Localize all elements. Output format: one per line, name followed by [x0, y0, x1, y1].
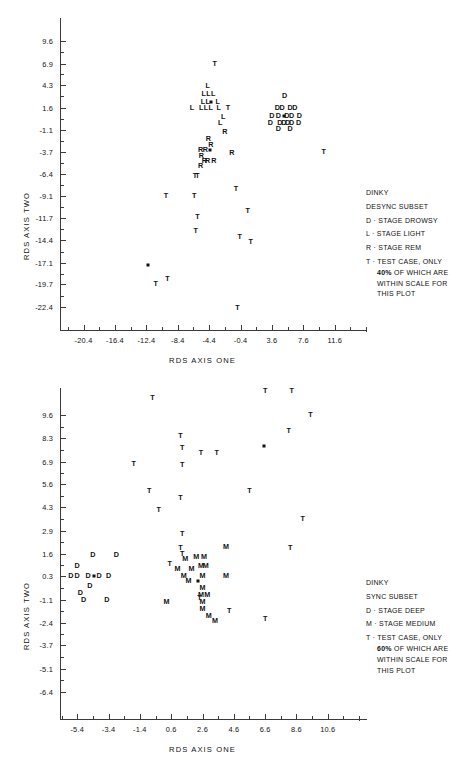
y-axis-minor-tick — [61, 657, 64, 658]
legend-note-line: THIS PLOT — [377, 666, 448, 676]
data-point-d: D — [75, 562, 80, 569]
data-point-d: D — [296, 119, 301, 126]
x-axis-title: RDS AXIS ONE — [169, 356, 236, 365]
x-axis-tick — [84, 325, 85, 330]
y-axis-tick — [61, 284, 66, 285]
y-axis-tick-label: -6.4 — [39, 170, 53, 179]
y-axis-tick-label: -6.4 — [39, 687, 53, 696]
y-axis-tick — [61, 554, 66, 555]
data-point-t: T — [214, 450, 218, 457]
y-axis-tick-label: -9.1 — [39, 192, 53, 201]
legend-note-line: WITHIN SCALE FOR — [377, 655, 448, 665]
y-axis-tick-label: 1.6 — [42, 549, 53, 558]
data-point-d: D — [282, 92, 287, 99]
y-axis-minor-tick — [61, 252, 64, 253]
legend-note-percent: 40% — [377, 269, 392, 276]
x-axis-tick — [115, 325, 116, 330]
data-point-m: M — [185, 578, 191, 585]
data-point-d: D — [276, 126, 281, 133]
data-point-t: T — [192, 192, 196, 199]
x-axis-tick-label: 4.6 — [228, 725, 239, 734]
y-axis-tick — [61, 623, 66, 624]
y-axis-minor-tick — [61, 96, 64, 97]
y-axis-minor-tick — [61, 588, 64, 589]
x-axis-minor-tick — [187, 716, 188, 719]
data-point-t: T — [131, 460, 135, 467]
x-axis-minor-tick — [131, 327, 132, 330]
legend-item: DESYNC SUBSET — [366, 202, 448, 212]
data-point-d: D — [97, 572, 102, 579]
data-point-marker — [208, 148, 211, 151]
data-point-t: T — [194, 228, 198, 235]
data-point-t: T — [167, 560, 171, 567]
x-axis-tick — [146, 325, 147, 330]
legend-note-line: THIS PLOT — [377, 289, 448, 299]
x-axis-tick-label: -4.4 — [202, 336, 216, 345]
y-axis-title: RDS AXIS TWO — [22, 582, 31, 650]
x-axis-tick-label: -20.4 — [75, 336, 93, 345]
x-axis-minor-tick — [359, 716, 360, 721]
y-axis-tick-label: 6.9 — [42, 457, 53, 466]
y-axis-tick-label: 4.3 — [42, 81, 53, 90]
y-axis-minor-tick — [61, 542, 64, 543]
data-point-t: T — [154, 280, 158, 287]
x-axis-tick-label: -3.4 — [102, 725, 116, 734]
x-axis-tick — [140, 714, 141, 719]
x-axis-minor-tick — [319, 327, 320, 330]
data-point-l: L — [190, 104, 194, 111]
y-axis-tick — [61, 218, 66, 219]
y-axis-minor-tick — [61, 296, 64, 297]
x-axis-title: RDS AXIS ONE — [169, 745, 236, 754]
x-axis-tick-label: -1.4 — [133, 725, 147, 734]
x-axis-tick-label: 11.6 — [327, 336, 342, 345]
y-axis-tick — [61, 576, 66, 577]
x-axis-tick — [272, 325, 273, 330]
data-point-t: T — [247, 488, 251, 495]
y-axis-tick-label: -22.4 — [35, 302, 53, 311]
x-axis-tick-label: 6.6 — [260, 725, 271, 734]
y-axis-tick — [61, 108, 66, 109]
data-point-t: T — [212, 60, 216, 67]
y-axis-minor-tick — [61, 634, 64, 635]
x-axis-tick — [171, 714, 172, 719]
y-axis-tick — [61, 307, 66, 308]
x-axis-tick — [328, 714, 329, 719]
legend-item: D · STAGE DEEP — [366, 606, 448, 616]
y-axis-tick — [61, 669, 66, 670]
x-axis-minor-tick — [288, 327, 289, 330]
data-point-marker — [209, 100, 212, 103]
y-axis-tick-label: 4.3 — [42, 502, 53, 511]
x-axis-tick-label: 8.6 — [291, 725, 302, 734]
data-point-m: M — [203, 562, 209, 569]
data-point-t: T — [263, 616, 267, 623]
data-point-d: D — [106, 572, 111, 579]
x-axis-tick — [178, 325, 179, 330]
data-point-t: T — [180, 531, 184, 538]
x-axis-minor-tick — [249, 716, 250, 719]
x-axis-minor-tick — [350, 327, 351, 330]
data-point-r: R — [205, 157, 210, 164]
data-point-t: T — [301, 515, 305, 522]
x-axis-minor-tick — [225, 327, 226, 330]
x-axis-tick-label: 7.6 — [298, 336, 309, 345]
y-axis-tick-label: 5.6 — [42, 480, 53, 489]
y-axis-tick — [61, 645, 66, 646]
data-point-t: T — [178, 495, 182, 502]
x-axis-minor-tick — [156, 716, 157, 719]
y-axis-tick-label: -5.1 — [39, 665, 53, 674]
x-axis-tick-label: -8.4 — [171, 336, 185, 345]
y-axis-minor-tick — [61, 519, 64, 520]
data-point-d: D — [114, 552, 119, 559]
x-axis-tick-label: -12.4 — [137, 336, 155, 345]
legend-note-percent: 60% — [377, 645, 392, 652]
y-axis-tick — [61, 415, 66, 416]
legend-item: D · STAGE DROWSY — [366, 216, 448, 226]
x-axis-minor-tick — [312, 716, 313, 719]
y-axis-minor-tick — [61, 119, 64, 120]
x-axis-tick — [203, 714, 204, 719]
legend-note-line: 60% OF WHICH ARE — [377, 644, 448, 654]
data-point-t: T — [308, 412, 312, 419]
data-point-d: D — [268, 119, 273, 126]
y-axis-tick-label: -14.4 — [35, 236, 53, 245]
data-point-m: M — [223, 572, 229, 579]
